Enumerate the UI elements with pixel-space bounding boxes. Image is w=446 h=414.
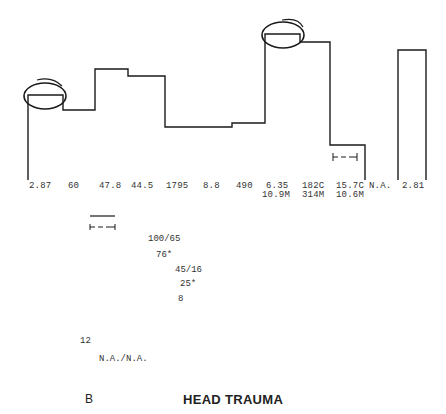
- category-label: 490: [236, 182, 253, 191]
- category-label: 1795: [166, 182, 188, 191]
- category-label: 60: [68, 182, 79, 191]
- step-profile-line: [28, 34, 365, 180]
- annotation-45-16: 45/16: [175, 265, 202, 275]
- range-marker-icon: [333, 153, 357, 161]
- panel-label: B: [85, 392, 93, 406]
- category-label: 2.81: [402, 182, 424, 191]
- category-label: 2.87: [29, 182, 51, 191]
- category-sublabel: 10.6M: [336, 191, 364, 200]
- annotation-na-na: N.A./N.A.: [99, 354, 148, 364]
- annotation-12: 12: [80, 336, 91, 346]
- category-sublabel: 10.9M: [262, 191, 290, 200]
- category-sublabel: 314M: [302, 191, 324, 200]
- category-label: 8.8: [203, 182, 220, 191]
- category-label: N.A.: [369, 182, 391, 191]
- chart-title: HEAD TRAUMA: [183, 392, 283, 407]
- separate-bar: [398, 50, 426, 180]
- legend-range-marker-icon: [90, 224, 115, 230]
- category-label: 44.5: [131, 182, 153, 191]
- annotation-76: 76*: [156, 250, 172, 260]
- annotation-100-65: 100/65: [148, 234, 180, 244]
- circle-annotation-1: [24, 79, 66, 109]
- category-label: 47.8: [99, 182, 121, 191]
- step-chart: [0, 0, 446, 414]
- annotation-25: 25*: [180, 279, 196, 289]
- annotation-8: 8: [178, 294, 183, 304]
